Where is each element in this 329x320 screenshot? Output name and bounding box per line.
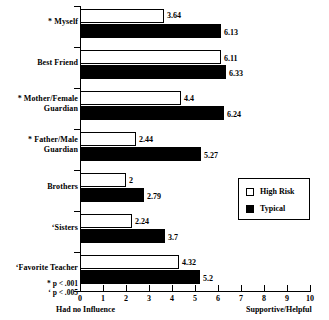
- category-label-father: * Father/Male Guardian: [0, 135, 78, 154]
- x-axis-tick: [195, 285, 196, 292]
- y-axis-tick: [74, 211, 81, 212]
- y-axis-tick: [74, 170, 81, 171]
- bar-high-risk-myself: [80, 9, 164, 23]
- category-label-favorite-teacher: ‘Favorite Teacher: [0, 263, 78, 273]
- bar-high-risk-brothers: [80, 173, 126, 187]
- x-axis-tick: [241, 285, 242, 292]
- x-axis-tick: [310, 285, 311, 292]
- x-axis-tick-label: 9: [279, 294, 295, 303]
- category-label-sisters: ‘Sisters: [0, 223, 78, 233]
- x-axis-tick: [218, 285, 219, 292]
- bar-value-high-risk-sisters: 2.24: [135, 217, 149, 226]
- footnote-p005: ‘ p < .005: [0, 288, 78, 297]
- x-axis-tick-label: 4: [164, 294, 180, 303]
- y-axis-tick: [74, 47, 81, 48]
- bar-value-typical-sisters: 3.7: [168, 233, 178, 242]
- bar-value-high-risk-father: 2.44: [139, 135, 153, 144]
- footnote-p001: * p < .001: [0, 279, 78, 288]
- x-axis-tick-label: 6: [210, 294, 226, 303]
- y-axis-tick: [74, 252, 81, 253]
- axis-caption-right: Supportive/Helpful: [246, 305, 312, 314]
- x-axis-tick: [103, 285, 104, 292]
- bar-value-typical-father: 5.27: [204, 151, 218, 160]
- category-label-best-friend: Best Friend: [0, 58, 78, 68]
- bar-value-typical-brothers: 2.79: [147, 192, 161, 201]
- y-axis-tick: [74, 129, 81, 130]
- legend-label-typical: Typical: [260, 204, 285, 213]
- x-axis-tick-label: 7: [233, 294, 249, 303]
- bar-typical-mother: [80, 106, 224, 120]
- y-axis-tick: [74, 88, 81, 89]
- x-axis-tick-label: 3: [141, 294, 157, 303]
- bar-high-risk-mother: [80, 91, 181, 105]
- bar-value-high-risk-favorite-teacher: 4.32: [182, 258, 196, 267]
- y-axis-tick: [74, 6, 81, 7]
- bar-typical-sisters: [80, 229, 165, 243]
- bar-value-typical-myself: 6.13: [224, 28, 238, 37]
- bar-value-typical-best-friend: 6.33: [229, 69, 243, 78]
- axis-caption-left: Had no Influence: [56, 305, 115, 314]
- bar-typical-brothers: [80, 188, 144, 202]
- x-axis-tick: [287, 285, 288, 292]
- bar-high-risk-father: [80, 132, 136, 146]
- category-label-mother: * Mother/Female Guardian: [0, 94, 78, 113]
- x-axis-tick-label: 10: [302, 294, 318, 303]
- bar-typical-favorite-teacher: [80, 270, 200, 284]
- bar-value-high-risk-brothers: 2: [129, 176, 133, 185]
- bar-value-high-risk-myself: 3.64: [167, 11, 181, 20]
- bar-value-typical-mother: 6.24: [227, 110, 241, 119]
- bar-high-risk-best-friend: [80, 50, 221, 64]
- category-label-brothers: Brothers: [0, 182, 78, 192]
- category-label-myself: * Myself: [0, 17, 78, 27]
- x-axis-tick-label: 8: [256, 294, 272, 303]
- bar-high-risk-favorite-teacher: [80, 255, 179, 269]
- bar-value-typical-favorite-teacher: 5.2: [203, 274, 213, 283]
- x-axis-tick-label: 1: [95, 294, 111, 303]
- bar-high-risk-sisters: [80, 214, 132, 228]
- chart-legend: High Risk Typical: [238, 178, 310, 220]
- legend-label-high-risk: High Risk: [260, 187, 294, 196]
- x-axis-tick: [149, 285, 150, 292]
- filled-square-icon: [246, 205, 254, 213]
- x-axis-tick: [80, 285, 81, 292]
- x-axis-tick: [126, 285, 127, 292]
- bar-typical-father: [80, 147, 201, 161]
- x-axis-tick: [264, 285, 265, 292]
- open-square-icon: [246, 188, 254, 196]
- bar-chart: * Myself Best Friend * Mother/Female Gua…: [0, 0, 329, 320]
- bar-value-high-risk-mother: 4.4: [184, 94, 194, 103]
- bar-value-high-risk-best-friend: 6.11: [224, 54, 238, 63]
- bar-typical-best-friend: [80, 65, 226, 79]
- x-axis-tick-label: 2: [118, 294, 134, 303]
- bar-typical-myself: [80, 24, 221, 38]
- x-axis-tick: [172, 285, 173, 292]
- x-axis-tick-label: 5: [187, 294, 203, 303]
